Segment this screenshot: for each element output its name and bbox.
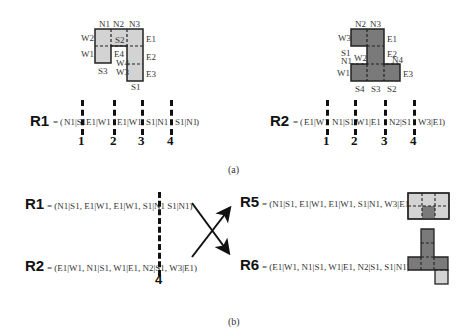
r6-shape bbox=[0, 0, 476, 336]
caption-b: (b) bbox=[228, 316, 240, 327]
